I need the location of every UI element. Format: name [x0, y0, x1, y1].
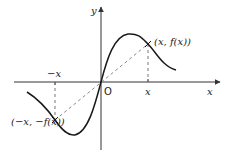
tick-label-positive-x: x: [145, 86, 151, 97]
point-label-positive: (x, f(x)): [154, 36, 191, 47]
diagram-canvas: y x O x −x (x, f(x)) (−x, −f(x)): [0, 0, 232, 154]
tick-label-negative-x: −x: [47, 68, 61, 79]
point-label-negative: (−x, −f(x)): [11, 116, 65, 127]
x-axis-label: x: [207, 86, 213, 97]
odd-function-diagram: y x O x −x (x, f(x)) (−x, −f(x)): [0, 0, 232, 154]
y-axis-label: y: [90, 5, 97, 16]
origin-label: O: [104, 86, 112, 97]
